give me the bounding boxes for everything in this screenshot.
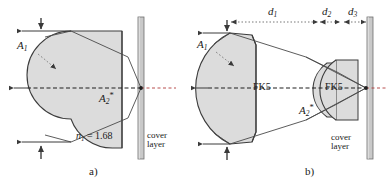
panel-a-tag: a)	[89, 166, 98, 178]
panel-b-cover-layer-label: cover layer	[331, 133, 351, 152]
panel-a-a2-label: A2*	[99, 91, 114, 106]
panel-a-a1-label: A1	[17, 40, 27, 53]
panel-b-a2-label: A2*	[299, 103, 314, 118]
panel-b-dimension-d2-label: d2	[322, 6, 331, 19]
panel-b-dimension-d3-label: d3	[348, 6, 357, 19]
panel-a-cover-layer-line2: layer	[147, 140, 167, 149]
panel-b-lens2-material-label: FK5	[325, 82, 343, 93]
diagram-canvas	[0, 0, 390, 185]
panel-b-a1-label: A1	[197, 39, 207, 52]
panel-b-tag: b)	[305, 166, 314, 178]
panel-b-cover-layer-line2: layer	[331, 142, 351, 151]
panel-b-lens1-material-label: FK5	[253, 82, 271, 93]
panel-b-dimension-d1-label: d1	[268, 6, 277, 19]
optical-diagram-figure: A1 A2* n1 = 1.68 cover layer a) A1 A2* F…	[0, 0, 390, 185]
panel-b-graphics	[196, 17, 388, 160]
panel-a-refractive-index-label: n1 = 1.68	[76, 131, 113, 142]
panel-a-cover-layer-label: cover layer	[147, 131, 167, 150]
